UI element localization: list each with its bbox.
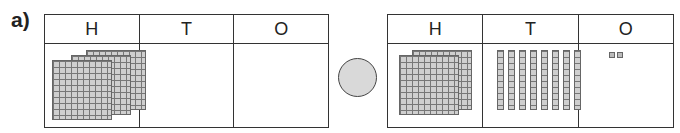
hundreds-cell [45, 44, 140, 128]
one-cube-icon [617, 52, 623, 58]
right-place-value-chart: H T O [387, 14, 674, 128]
left-place-value-chart: H T O [44, 14, 329, 128]
header-tens: T [483, 15, 578, 44]
ten-rod-icon [530, 50, 537, 110]
header-tens: T [139, 15, 234, 44]
ones-cell [578, 44, 673, 128]
header-hundreds: H [45, 15, 140, 44]
ten-rod-icon [519, 50, 526, 110]
header-hundreds: H [388, 15, 483, 44]
hundreds-cell [388, 44, 483, 128]
question-label: a) [11, 8, 30, 32]
hundred-flat-icon [52, 60, 112, 120]
ten-rod-icon [563, 50, 570, 110]
tens-cell [483, 44, 578, 128]
ten-rod-icon [552, 50, 559, 110]
ones-cell [234, 44, 329, 128]
ten-rod-icon [497, 50, 504, 110]
ten-rod-icon [541, 50, 548, 110]
header-ones: O [578, 15, 673, 44]
header-ones: O [234, 15, 329, 44]
comparison-circle[interactable] [338, 58, 377, 97]
ten-rod-icon [508, 50, 515, 110]
tens-cell [139, 44, 234, 128]
hundred-flat-icon [399, 55, 459, 115]
one-cube-icon [609, 52, 615, 58]
